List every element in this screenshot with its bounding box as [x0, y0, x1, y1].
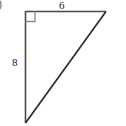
triangle-hypotenuse [26, 12, 107, 124]
left-leg-length-label: 8 [12, 57, 18, 68]
top-leg-length-label: 6 [59, 0, 65, 11]
right-angle-icon [26, 12, 36, 22]
figure-container: ) 6 8 [0, 0, 126, 126]
right-triangle-drawing [0, 0, 126, 126]
